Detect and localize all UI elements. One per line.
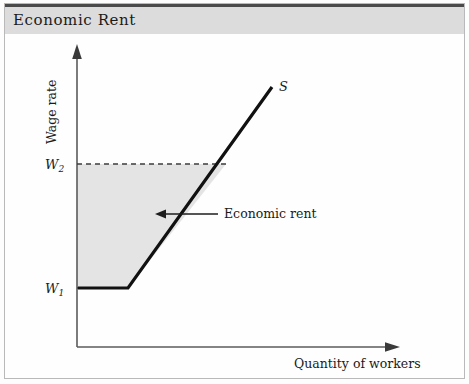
wage-low-label-subscript: 1 xyxy=(58,288,64,298)
wage-high-label-subscript: 2 xyxy=(57,164,64,174)
figure-title: Economic Rent xyxy=(13,11,136,29)
y-axis-arrowhead xyxy=(72,44,82,59)
wage-high-label: W2 xyxy=(45,157,64,174)
x-axis-label: Quantity of workers xyxy=(294,356,421,371)
economic-rent-chart: S Wage rate Quantity of workers W2 W1 Ec… xyxy=(0,34,469,384)
economic-rent-callout-label: Economic rent xyxy=(224,206,317,221)
supply-curve-label: S xyxy=(279,79,288,94)
x-axis-arrowhead xyxy=(385,342,400,352)
y-axis-label: Wage rate xyxy=(44,80,59,144)
figure-page: Economic Rent S Wage rate Quantity of wo… xyxy=(0,0,469,384)
wage-low-label: W1 xyxy=(45,281,64,298)
